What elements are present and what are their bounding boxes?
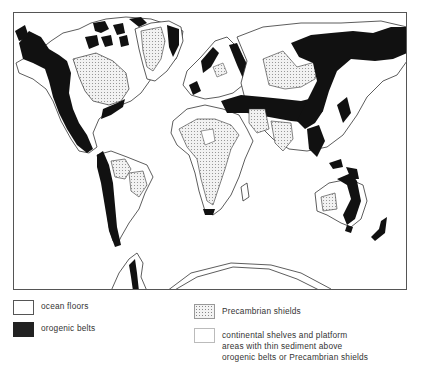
asia	[221, 21, 407, 179]
australia	[315, 173, 387, 241]
map-svg	[14, 13, 407, 290]
antarctica	[111, 253, 333, 290]
legend-swatch-ocean	[13, 300, 34, 315]
legend-label-shelves-1: continental shelves and platform	[222, 330, 347, 341]
legend-label-shelves-3: orogenic belts or Precambrian shields	[222, 352, 368, 363]
africa	[171, 105, 253, 215]
legend-label-shelves-2: areas with thin sediment above	[222, 341, 342, 352]
legend-swatch-shelves	[194, 328, 215, 343]
world-map	[13, 12, 407, 290]
south-america	[97, 151, 153, 247]
legend-label-orogenic: orogenic belts	[41, 323, 95, 334]
legend-label-ocean: ocean floors	[41, 301, 89, 312]
legend-label-precambrian: Precambrian shields	[222, 306, 301, 317]
legend-swatch-precambrian	[194, 304, 215, 319]
legend-swatch-orogenic	[13, 322, 34, 337]
